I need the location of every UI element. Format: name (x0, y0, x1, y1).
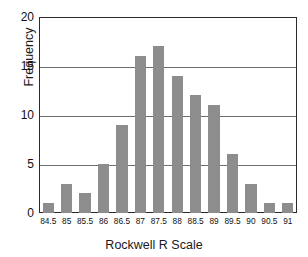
x-axis-tick-labels: 84.58585.58686.58787.58888.58989.59090.5… (39, 216, 297, 232)
x-axis-tick-label: 89 (209, 216, 218, 226)
histogram-bar (79, 193, 90, 213)
x-axis-tick-label: 90 (246, 216, 255, 226)
histogram-bar (61, 184, 72, 213)
x-axis-tick-label: 85.5 (77, 216, 93, 226)
histogram-bar (98, 164, 109, 213)
x-axis-tick-label: 91 (283, 216, 292, 226)
histogram-bar (190, 95, 201, 213)
histogram-figure: Frequency 05101520 84.58585.58686.58787.… (0, 0, 308, 257)
x-axis-tick-label: 88 (173, 216, 182, 226)
histogram-bar (43, 203, 54, 213)
histogram-bar (172, 76, 183, 213)
y-axis-tick-label: 15 (4, 60, 34, 72)
y-axis-tick-label: 20 (4, 11, 34, 23)
x-axis-tick-label: 87.5 (151, 216, 167, 226)
x-axis-tick-label: 86 (99, 216, 108, 226)
histogram-bar (227, 154, 238, 213)
x-axis-tick-label: 89.5 (224, 216, 240, 226)
histogram-bar (153, 46, 164, 213)
x-axis-tick-label: 87 (136, 216, 145, 226)
y-axis-tick-label: 10 (4, 109, 34, 121)
x-axis-tick-label: 88.5 (188, 216, 204, 226)
y-axis-tick-label: 5 (4, 158, 34, 170)
histogram-bar (116, 125, 127, 213)
histogram-bar (245, 184, 256, 213)
histogram-bar (135, 56, 146, 213)
bars-container (39, 17, 297, 213)
histogram-bar (264, 203, 275, 213)
histogram-bar (208, 105, 219, 213)
x-axis-tick-label: 90.5 (261, 216, 277, 226)
y-axis-tick-label: 0 (4, 207, 34, 219)
histogram-bar (282, 203, 293, 213)
x-axis-tick-label: 84.5 (40, 216, 56, 226)
x-axis-label: Rockwell R Scale (0, 238, 308, 252)
x-axis-tick-label: 85 (62, 216, 71, 226)
x-axis-tick-label: 86.5 (114, 216, 130, 226)
